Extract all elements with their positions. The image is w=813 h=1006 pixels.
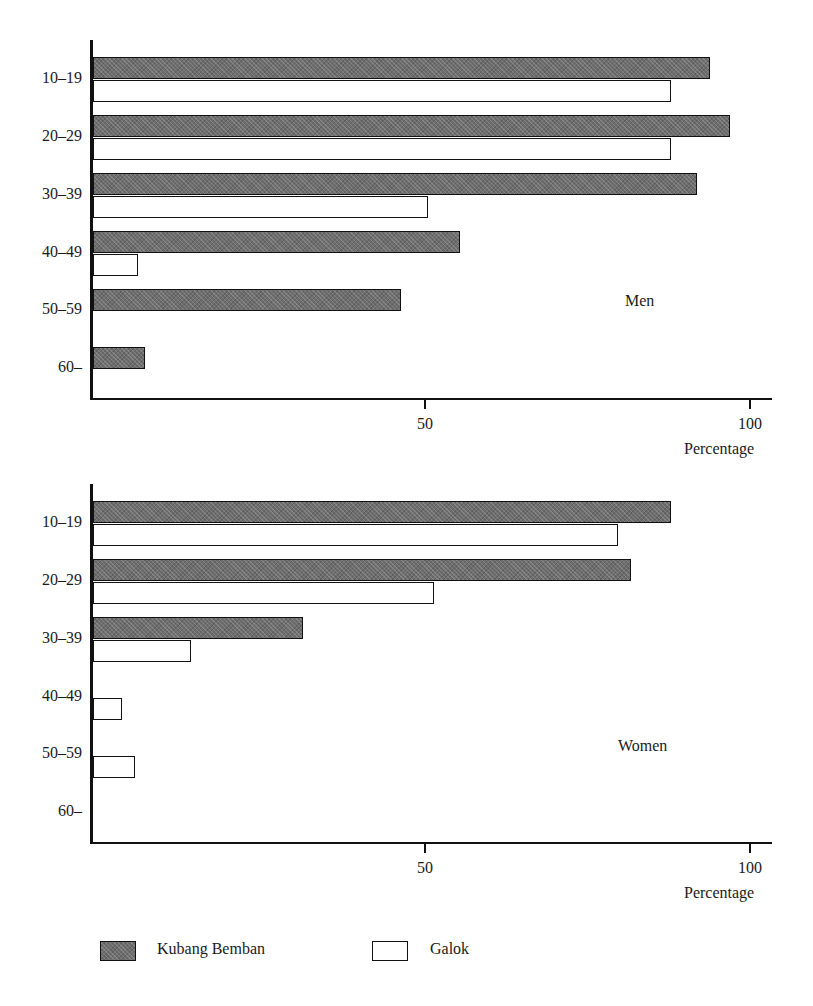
bar-women-kubang-bemban-0	[93, 501, 671, 523]
y-category-label-men-3: 40–49	[0, 243, 82, 261]
bar-women-galok-0	[93, 524, 619, 546]
x-ticklabel-100-men: 100	[720, 415, 780, 433]
y-category-label-women-5: 60–	[0, 802, 82, 820]
bar-men-galok-1	[93, 138, 671, 160]
bar-women-galok-3	[93, 698, 123, 720]
y-category-label-women-1: 20–29	[0, 571, 82, 589]
x-tick-50-men	[424, 400, 426, 409]
x-ticklabel-50-men: 50	[395, 415, 455, 433]
y-category-label-women-0: 10–19	[0, 513, 82, 531]
bar-men-galok-0	[93, 80, 671, 102]
legend-label-kubang-bemban: Kubang Bemban	[157, 940, 265, 958]
bar-men-kubang-bemban-1	[93, 115, 730, 137]
bar-men-kubang-bemban-0	[93, 57, 711, 79]
y-category-label-men-5: 60–	[0, 358, 82, 376]
x-axis-women	[90, 842, 772, 844]
bar-men-kubang-bemban-3	[93, 231, 461, 253]
y-category-label-men-0: 10–19	[0, 69, 82, 87]
x-tick-100-women	[749, 844, 751, 853]
bar-women-galok-4	[93, 756, 136, 778]
panel-label-women: Women	[618, 737, 667, 755]
figure-page: { "figure": { "legend": { "items": [ {"k…	[0, 0, 813, 1006]
x-tick-100-men	[749, 400, 751, 409]
panel-label-men: Men	[625, 292, 654, 310]
bar-women-kubang-bemban-2	[93, 617, 303, 639]
y-category-label-women-4: 50–59	[0, 744, 82, 762]
x-axis-title-women: Percentage	[684, 884, 754, 902]
legend-label-galok: Galok	[430, 940, 469, 958]
bar-men-galok-3	[93, 254, 139, 276]
x-tick-50-women	[424, 844, 426, 853]
y-category-label-men-4: 50–59	[0, 300, 82, 318]
bar-women-galok-1	[93, 582, 435, 604]
legend-swatch-kubang-bemban	[100, 941, 136, 961]
bar-men-galok-2	[93, 196, 428, 218]
bar-women-galok-2	[93, 640, 192, 662]
bar-men-kubang-bemban-5	[93, 347, 146, 369]
bar-men-kubang-bemban-4	[93, 289, 402, 311]
bar-men-kubang-bemban-2	[93, 173, 697, 195]
x-axis-men	[90, 398, 772, 400]
legend-swatch-galok	[372, 941, 408, 961]
x-ticklabel-100-women: 100	[720, 859, 780, 877]
bar-women-kubang-bemban-1	[93, 559, 632, 581]
x-ticklabel-50-women: 50	[395, 859, 455, 877]
y-category-label-women-3: 40–49	[0, 687, 82, 705]
y-category-label-women-2: 30–39	[0, 629, 82, 647]
x-axis-title-men: Percentage	[684, 440, 754, 458]
y-category-label-men-2: 30–39	[0, 185, 82, 203]
y-category-label-men-1: 20–29	[0, 127, 82, 145]
